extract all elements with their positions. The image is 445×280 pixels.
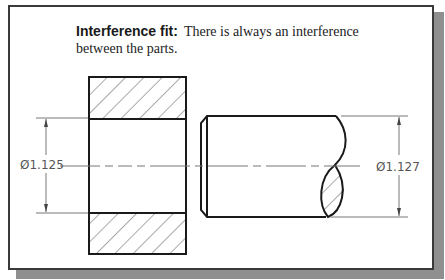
hole-bottom-section-hatch: [89, 213, 186, 254]
arrow-up-icon: [397, 117, 401, 125]
shaft-dimension-label: Ø1.127: [376, 160, 420, 174]
fit-drawing: Ø1.125 Ø1.127: [0, 0, 445, 280]
hole-top-section-hatch: [89, 77, 186, 119]
break-line: [335, 116, 346, 165]
arrow-down-icon: [44, 204, 48, 212]
hole-dimension-label: Ø1.125: [20, 158, 64, 172]
arrow-up-icon: [44, 119, 48, 127]
shaft-part: [201, 116, 355, 225]
arrow-down-icon: [397, 208, 401, 216]
